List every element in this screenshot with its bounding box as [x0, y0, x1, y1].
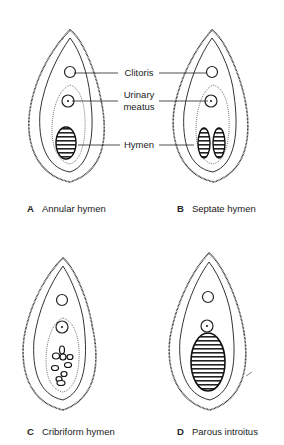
caption-b-title: Septate hymen — [192, 203, 256, 214]
figure-a-annular-hymen — [29, 30, 104, 182]
caption-a-title: Annular hymen — [42, 203, 106, 214]
label-urinary-meatus-line1: Urinary — [118, 89, 160, 101]
hymen-opening-shape — [56, 127, 76, 159]
caption-d-letter: D — [177, 426, 184, 437]
caption-c-letter: C — [27, 426, 34, 437]
figure-b-septate-hymen — [173, 30, 248, 182]
caption-a-letter: A — [27, 203, 34, 214]
caption-d: DParous introitus — [177, 426, 258, 437]
clitoris-shape — [65, 67, 76, 78]
introitus-opening-shape — [191, 333, 225, 391]
caption-b-letter: B — [177, 203, 184, 214]
cribriform-openings — [52, 346, 74, 386]
caption-d-title: Parous introitus — [192, 426, 258, 437]
caption-c-title: Cribriform hymen — [42, 426, 115, 437]
caption-b: BSeptate hymen — [177, 203, 256, 214]
figure-c-cribriform-hymen — [23, 258, 96, 410]
caption-c: CCribriform hymen — [27, 426, 115, 437]
caption-a: AAnnular hymen — [27, 203, 106, 214]
figure-d-parous-introitus — [169, 253, 252, 410]
label-clitoris: Clitoris — [118, 67, 160, 79]
label-hymen: Hymen — [118, 139, 160, 151]
label-urinary-meatus-line2: meatus — [118, 101, 160, 113]
